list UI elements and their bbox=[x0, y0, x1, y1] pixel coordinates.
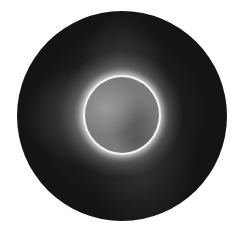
occulted-disk-ring bbox=[83, 75, 161, 155]
